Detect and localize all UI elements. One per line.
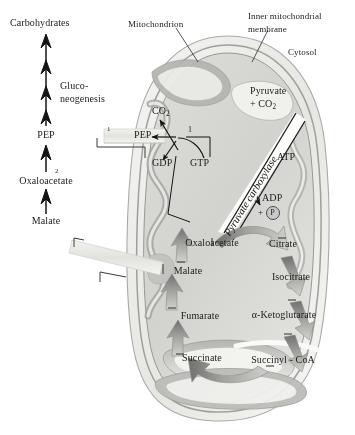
cycle-label-isocitrate: Isocitrate — [272, 272, 310, 283]
label-cytosol: Cytosol — [288, 48, 317, 58]
gluconeogenesis-arrows — [41, 34, 51, 126]
label-cytosol-malate: Malate — [32, 216, 60, 227]
label-matrix-pep: PEP — [134, 130, 152, 141]
label-gdp: GDP — [152, 158, 172, 169]
label-inner-membrane-line2: membrane — [248, 25, 287, 35]
label-cytosol-oxaloacetate: Oxaloacetate — [19, 176, 72, 187]
label-adp: ADP — [262, 193, 282, 204]
oxaloacetate-to-pep-arrow — [41, 145, 51, 172]
label-gtp: GTP — [190, 158, 209, 169]
label-atp: ATP — [277, 152, 295, 163]
label-step-1-matrix: 1 — [188, 126, 192, 135]
label-co2: CO2 — [152, 106, 170, 118]
cycle-label-succinate: Succinate — [182, 353, 222, 364]
label-pyruvate: Pyruvate — [250, 86, 286, 97]
label-inner-membrane-line1: Inner mitochondrial — [248, 12, 322, 22]
phosphate-circle-icon: P — [266, 206, 280, 220]
label-phosphate: + P — [258, 206, 280, 220]
cycle-label-fumarate: Fumarate — [181, 311, 220, 322]
cycle-label-malate: Malate — [174, 266, 202, 277]
label-step-1-cytosol: 1 — [107, 126, 111, 134]
label-gluconeogenesis-line1: Gluco- — [60, 81, 88, 92]
label-carbohydrates: Carbohydrates — [10, 18, 70, 29]
cycle-label-oxaloacetate: Oxaloacetate — [185, 238, 238, 249]
cycle-label-citrate: Citrate — [269, 239, 297, 250]
cycle-label-alpha-ketoglutarate: α-Ketoglutarate — [252, 310, 317, 321]
cycle-label-succinyl-coa: Succinyl - CoA — [251, 355, 315, 366]
malate-to-oxaloacetate-arrow — [41, 189, 51, 214]
label-cytosol-pep: PEP — [37, 130, 55, 141]
label-gluconeogenesis-line2: neogenesis — [60, 94, 105, 105]
figure-canvas: Carbohydrates Mitochondrion Inner mitoch… — [0, 0, 355, 435]
label-pyruvate-co2: + CO2 — [250, 99, 276, 111]
label-mitochondrion: Mitochondrion — [128, 20, 183, 30]
